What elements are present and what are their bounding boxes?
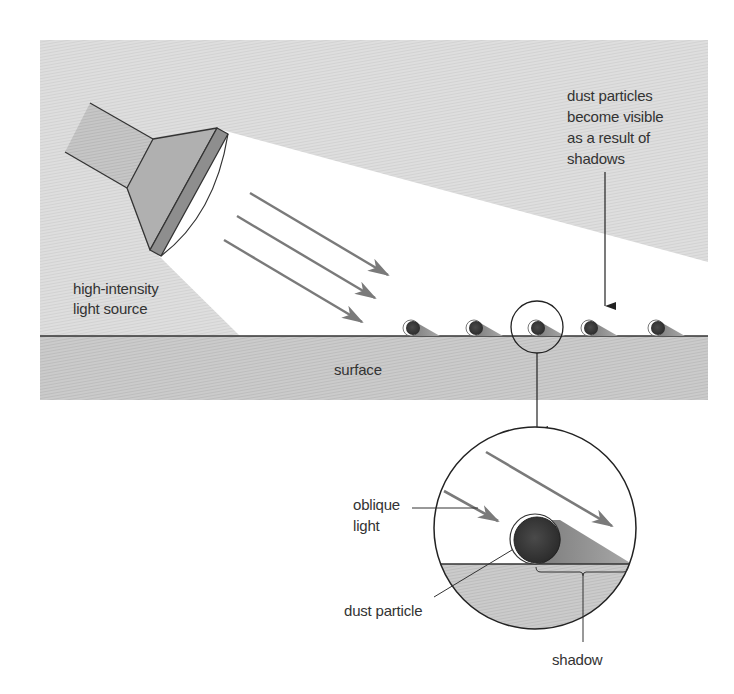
dust-particle-label: dust particle [344, 602, 422, 619]
magnified-view: oblique light dust particle shadow [344, 420, 640, 668]
surface-label: surface [334, 361, 382, 378]
oblique-light-label: oblique light [353, 496, 404, 534]
scene-overview: high-intensity light source dust particl… [40, 40, 708, 430]
magnified-dust-particle [510, 514, 560, 564]
dust-particle-oblique-light-diagram: high-intensity light source dust particl… [0, 0, 734, 694]
shadow-label: shadow [552, 651, 603, 668]
